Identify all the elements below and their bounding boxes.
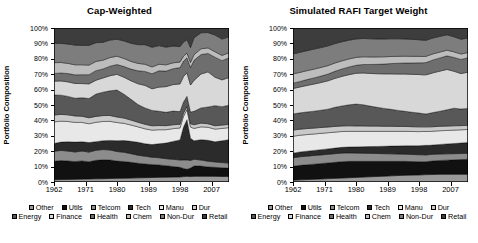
legend-item-finance[interactable]: Finance [288,212,321,221]
legend-label: Retail [448,212,466,221]
legend-item-health[interactable]: Health [90,212,118,221]
legend-swatch-icon [202,214,207,219]
chart-panel-rafi: Simulated RAFI Target Weight Portfolio C… [239,0,478,200]
legend-swatch-icon [91,205,96,210]
y-tick-label-right: 60% [253,86,287,93]
legend-swatch-icon [330,205,335,210]
y-tick-label-left: 20% [14,148,48,155]
legend-swatch-icon [329,214,334,219]
x-tick-mark-right [293,182,294,186]
x-tick-label-left: 1962 [37,186,71,194]
y-tick-label-left: 90% [14,40,48,47]
x-tick-mark-right [388,182,389,186]
legend-item-utils[interactable]: Utils [301,203,322,212]
y-tick-label-right: 100% [253,25,287,32]
legend-label: Chem [133,212,152,221]
legend-swatch-icon [398,205,403,210]
legend-item-chem[interactable]: Chem [365,212,391,221]
y-tick-label-right: 30% [253,132,287,139]
legend-item-tech[interactable]: Tech [128,203,150,212]
legend-item-telcom[interactable]: Telcom [330,203,360,212]
legend-swatch-icon [367,205,372,210]
legend-swatch-icon [128,205,133,210]
legend-item-utils[interactable]: Utils [62,203,83,212]
y-tick-label-left: 100% [14,25,48,32]
x-tick-mark-left [86,182,87,186]
legend-label: Other [275,203,293,212]
legend-item-tech[interactable]: Tech [367,203,389,212]
legend-swatch-icon [62,205,67,210]
y-tick-label-right: 50% [253,102,287,109]
legend-label: Finance [56,212,82,221]
legend-swatch-icon [49,214,54,219]
legend-swatch-icon [301,205,306,210]
stacked-area-svg-left [54,28,229,182]
x-tick-label-left: 1998 [163,186,197,194]
legend-swatch-icon [251,214,256,219]
legend-item-telcom[interactable]: Telcom [91,203,121,212]
legend-item-dur[interactable]: Dur [431,203,450,212]
legend-swatch-icon [288,214,293,219]
legend-label: Health [97,212,118,221]
legend-label: Manu [405,203,423,212]
legend-right: OtherUtilsTelcomTechManuDurEnergyFinance… [239,203,478,221]
legend-swatch-icon [192,205,197,210]
legend-label: Energy [258,212,281,221]
x-tick-label-left: 1971 [69,186,103,194]
x-tick-mark-right [419,182,420,186]
x-tick-label-right: 1989 [371,186,405,194]
legend-swatch-icon [159,205,164,210]
legend-item-non-dur[interactable]: Non-Dur [160,212,194,221]
legend-item-dur[interactable]: Dur [192,203,211,212]
legend-row: OtherUtilsTelcomTechManuDur [0,203,239,212]
legend-item-retail[interactable]: Retail [202,212,227,221]
x-tick-label-left: 2007 [195,186,229,194]
legend-swatch-icon [431,205,436,210]
legend-swatch-icon [365,214,370,219]
y-tick-label-left: 0% [14,179,48,186]
legend-item-energy[interactable]: Energy [251,212,281,221]
legend-label: Other [36,203,54,212]
legend-item-other[interactable]: Other [268,203,293,212]
legend-item-manu[interactable]: Manu [398,203,423,212]
x-tick-label-left: 1989 [132,186,166,194]
x-tick-mark-right [451,182,452,186]
legend-label: Retail [209,212,227,221]
y-axis-label-right: Portfolio Composition [241,40,250,170]
y-tick-label-right: 70% [253,71,287,78]
y-tick-label-right: 90% [253,40,287,47]
x-tick-mark-right [325,182,326,186]
legend-label: Telcom [337,203,360,212]
legend-item-finance[interactable]: Finance [49,212,82,221]
chart-panel-cap-weighted: Cap-Weighted Portfolio Composition 0%10%… [0,0,239,200]
legend-item-chem[interactable]: Chem [126,212,152,221]
legend-item-other[interactable]: Other [29,203,54,212]
legend-label: Dur [438,203,450,212]
legend-item-health[interactable]: Health [329,212,357,221]
legend-item-retail[interactable]: Retail [441,212,466,221]
legend-swatch-icon [441,214,446,219]
x-tick-label-right: 1962 [276,186,310,194]
legend-swatch-icon [126,214,131,219]
x-tick-label-right: 1980 [339,186,373,194]
legend-item-energy[interactable]: Energy [12,212,42,221]
legend-label: Utils [69,203,83,212]
y-tick-label-left: 70% [14,71,48,78]
y-axis-label-left: Portfolio Composition [2,40,11,170]
y-tick-label-left: 50% [14,102,48,109]
y-tick-label-left: 40% [14,117,48,124]
legend-label: Health [336,212,357,221]
legend-swatch-icon [90,214,95,219]
legend-label: Telcom [98,203,121,212]
x-tick-mark-left [180,182,181,186]
legend-label: Dur [199,203,211,212]
legend-item-manu[interactable]: Manu [159,203,184,212]
legend-row: EnergyFinanceHealthChemNon-DurRetail [0,212,239,221]
y-tick-label-left: 60% [14,86,48,93]
legend-swatch-icon [268,205,273,210]
legend-item-non-dur[interactable]: Non-Dur [399,212,433,221]
legend-row: EnergyFinanceHealthChemNon-DurRetail [239,212,478,221]
legend-row: OtherUtilsTelcomTechManuDur [239,203,478,212]
y-tick-label-left: 30% [14,132,48,139]
plot-area-left [54,28,229,182]
